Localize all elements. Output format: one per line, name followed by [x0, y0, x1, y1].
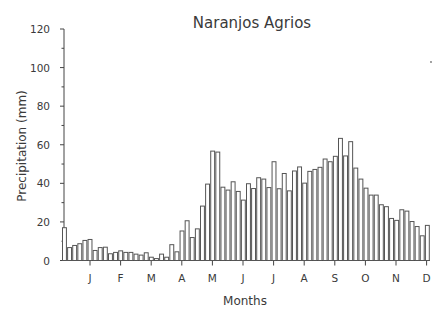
bar	[221, 187, 225, 260]
bar	[180, 231, 184, 261]
bar	[257, 178, 261, 261]
bar	[103, 247, 107, 260]
x-month-label: S	[331, 272, 338, 284]
bar	[226, 190, 230, 260]
bar	[323, 159, 327, 260]
bar	[114, 252, 118, 260]
bar	[379, 205, 383, 261]
x-month-label: D	[423, 272, 431, 284]
bar	[308, 171, 312, 260]
x-axis-label: Months	[223, 294, 267, 308]
bar	[149, 257, 153, 260]
bar	[282, 173, 286, 260]
bar	[155, 259, 159, 261]
bar	[88, 239, 92, 260]
bar	[93, 250, 97, 260]
bar	[374, 195, 378, 260]
x-month-label: J	[271, 272, 275, 284]
bar	[400, 210, 404, 261]
y-tick-label: 120	[30, 23, 50, 35]
bar	[410, 222, 414, 261]
bar	[328, 162, 332, 261]
bar	[385, 207, 389, 261]
bar	[195, 229, 199, 261]
bar	[190, 238, 194, 261]
bar	[390, 218, 394, 260]
bar	[160, 254, 164, 260]
bar	[170, 245, 174, 261]
bar	[405, 211, 409, 260]
bar	[303, 183, 307, 260]
bar	[109, 254, 113, 261]
bar	[206, 184, 210, 260]
bars	[63, 138, 430, 260]
x-month-label: A	[178, 272, 186, 284]
x-month-label: J	[240, 272, 244, 284]
bar	[262, 179, 266, 260]
bar	[98, 248, 102, 261]
bar	[175, 252, 179, 261]
y-axis-label: Precipitation (mm)	[15, 90, 29, 202]
x-month-label: M	[208, 272, 217, 284]
y-tick-label: 80	[37, 100, 50, 112]
bar	[185, 221, 189, 261]
bar	[78, 244, 82, 261]
bar	[134, 254, 138, 260]
bar	[252, 189, 256, 261]
bar	[287, 191, 291, 261]
bar	[267, 188, 271, 261]
bar	[293, 171, 297, 261]
bar	[73, 245, 77, 260]
bar	[354, 168, 358, 260]
bar	[333, 156, 337, 260]
y-tick-label: 40	[37, 177, 50, 189]
bar	[68, 248, 72, 261]
x-month-label: J	[87, 272, 91, 284]
bar	[277, 189, 281, 261]
precipitation-bar-chart: Naranjos Agrios Precipitation (mm) Month…	[0, 0, 448, 325]
bar	[425, 225, 429, 260]
bar	[211, 151, 215, 260]
x-month-label: A	[301, 272, 309, 284]
bar	[129, 252, 133, 260]
bar	[339, 138, 343, 260]
bar	[216, 152, 220, 260]
bar	[139, 255, 143, 260]
bar	[63, 228, 67, 261]
y-tick-label: 0	[43, 255, 50, 267]
bar	[272, 162, 276, 261]
bar	[119, 251, 123, 261]
y-tick-label: 100	[30, 62, 50, 74]
bar	[313, 169, 317, 260]
x-axis: JFMAMJJASOND	[62, 261, 431, 284]
bar	[144, 253, 148, 261]
y-tick-label: 60	[37, 139, 50, 151]
bar	[247, 184, 251, 261]
bar	[165, 257, 169, 260]
x-month-label: N	[392, 272, 400, 284]
y-axis: 020406080100120	[30, 23, 64, 267]
x-month-label: M	[147, 272, 156, 284]
bar	[201, 206, 205, 260]
bar	[231, 182, 235, 261]
y-tick-label: 20	[37, 216, 50, 228]
bar	[369, 195, 373, 260]
bar	[364, 188, 368, 260]
bar	[349, 142, 353, 261]
bar	[298, 167, 302, 261]
bar	[236, 191, 240, 260]
bar	[395, 220, 399, 260]
bar	[241, 200, 245, 260]
x-month-label: O	[361, 272, 369, 284]
bar	[318, 167, 322, 260]
bar	[415, 227, 419, 261]
stray-mark	[430, 61, 432, 63]
bar	[359, 179, 363, 260]
bar	[83, 240, 87, 260]
bar	[344, 156, 348, 261]
x-month-label: F	[118, 272, 124, 284]
bar	[420, 236, 424, 261]
bar	[124, 252, 128, 260]
chart-title: Naranjos Agrios	[193, 14, 312, 32]
